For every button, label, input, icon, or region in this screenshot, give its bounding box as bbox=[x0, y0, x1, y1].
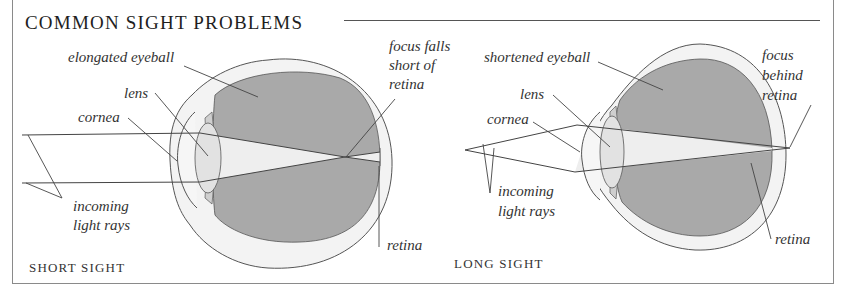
long-sight-focus-label-1: focus bbox=[762, 47, 794, 63]
long-sight-caption: LONG SIGHT bbox=[454, 256, 544, 271]
short-sight-rays-label-1: incoming bbox=[73, 198, 129, 214]
short-sight-cornea-label: cornea bbox=[78, 109, 120, 125]
long-sight-focus-leader bbox=[790, 105, 811, 147]
long-sight-focus-label-2: behind bbox=[762, 67, 803, 83]
short-sight-retina-label: retina bbox=[387, 237, 422, 253]
short-sight-rays-label-2: light rays bbox=[73, 217, 130, 233]
long-sight-lens-label: lens bbox=[520, 86, 544, 102]
long-sight-cornea-leader bbox=[533, 122, 580, 152]
long-sight-focus-label-3: retina bbox=[762, 87, 797, 103]
short-sight-cornea-leader bbox=[128, 118, 177, 161]
long-sight-retina-label: retina bbox=[775, 231, 810, 247]
long-sight-eyeball-label: shortened eyeball bbox=[484, 49, 590, 65]
long-sight-rays-label-2: light rays bbox=[498, 203, 555, 219]
long-sight-rays-label-1: incoming bbox=[498, 183, 554, 199]
long-sight-cornea-label: cornea bbox=[487, 111, 529, 127]
long-sight-lens bbox=[600, 116, 624, 188]
short-sight-diagram: elongated eyeball lens cornea focus fall… bbox=[22, 38, 450, 275]
short-sight-focus-label-3: retina bbox=[389, 76, 424, 92]
long-sight-diagram: shortened eyeball lens cornea focus behi… bbox=[454, 44, 811, 271]
long-sight-cornea bbox=[582, 112, 600, 200]
short-sight-lens-label: lens bbox=[124, 85, 148, 101]
short-sight-rays-pointer bbox=[26, 135, 62, 198]
short-sight-caption: SHORT SIGHT bbox=[29, 260, 125, 275]
eye-diagrams: elongated eyeball lens cornea focus fall… bbox=[0, 0, 842, 304]
short-sight-focus-label-1: focus falls bbox=[389, 38, 450, 54]
long-sight-rays-pointer bbox=[483, 144, 494, 193]
short-sight-eyeball-label: elongated eyeball bbox=[68, 49, 174, 65]
short-sight-focus-label-2: short of bbox=[389, 57, 437, 73]
